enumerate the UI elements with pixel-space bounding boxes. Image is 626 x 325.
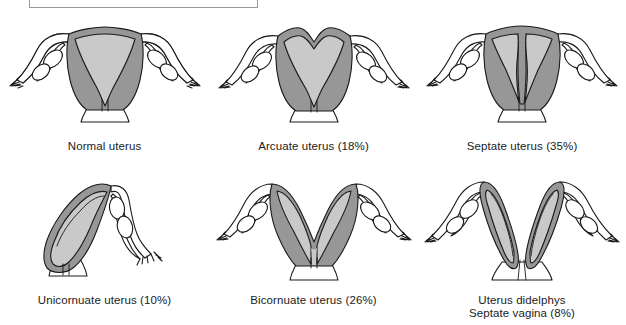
panel-grid: Normal uterus xyxy=(0,12,626,325)
uterus-didelphys-illustration xyxy=(424,164,620,282)
panel-normal-uterus: Normal uterus xyxy=(0,12,209,164)
septate-uterus-illustration xyxy=(424,12,620,124)
panel-caption: Septate uterus (35%) xyxy=(467,140,578,153)
panel-caption: Bicornuate uterus (26%) xyxy=(250,294,376,307)
panel-bicornuate-uterus: Bicornuate uterus (26%) xyxy=(209,164,418,325)
unicornuate-uterus-illustration xyxy=(7,164,203,282)
normal-uterus-illustration xyxy=(7,12,203,124)
bicornuate-uterus-illustration xyxy=(216,164,412,282)
uterine-anomalies-figure: Normal uterus xyxy=(0,0,626,325)
panel-caption: Normal uterus xyxy=(68,140,142,153)
panel-caption: Uterus didelphys Septate vagina (8%) xyxy=(469,294,575,320)
panel-arcuate-uterus: Arcuate uterus (18%) xyxy=(209,12,418,164)
panel-septate-uterus: Septate uterus (35%) xyxy=(418,12,626,164)
panel-caption: Arcuate uterus (18%) xyxy=(258,140,369,153)
panel-caption: Unicornuate uterus (10%) xyxy=(38,294,171,307)
arcuate-uterus-illustration xyxy=(216,12,412,124)
title-box xyxy=(29,0,258,8)
panel-unicornuate-uterus: Unicornuate uterus (10%) xyxy=(0,164,209,325)
panel-uterus-didelphys: Uterus didelphys Septate vagina (8%) xyxy=(418,164,626,325)
